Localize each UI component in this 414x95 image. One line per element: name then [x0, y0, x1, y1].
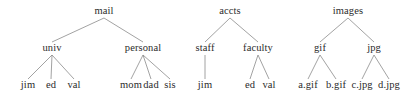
- tree-node-mom[interactable]: mom: [120, 79, 142, 90]
- tree-node-sis[interactable]: sis: [164, 79, 175, 90]
- tree-node-univ[interactable]: univ: [42, 42, 61, 53]
- tree-node-ed[interactable]: ed: [46, 79, 56, 90]
- tree-node-c_jpg[interactable]: c.jpg: [351, 79, 372, 90]
- tree-node-b_gif[interactable]: b.gif: [326, 79, 346, 90]
- tree-node-val2[interactable]: val: [262, 79, 275, 90]
- tree-node-images[interactable]: images: [333, 5, 363, 16]
- tree-node-staff[interactable]: staff: [196, 42, 215, 53]
- tree-node-personal[interactable]: personal: [125, 42, 161, 53]
- tree-node-faculty[interactable]: faculty: [243, 42, 273, 53]
- tree-node-ed2[interactable]: ed: [245, 79, 255, 90]
- tree-diagram-canvas: mailunivpersonaljimedvalmomdadsisacctsst…: [0, 0, 414, 95]
- tree-nodes: mailunivpersonaljimedvalmomdadsisacctsst…: [0, 0, 414, 95]
- tree-node-dad[interactable]: dad: [143, 79, 158, 90]
- tree-node-jim[interactable]: jim: [21, 79, 35, 90]
- tree-node-val[interactable]: val: [67, 79, 80, 90]
- tree-node-gif[interactable]: gif: [314, 42, 326, 53]
- tree-node-jpg[interactable]: jpg: [367, 42, 381, 53]
- tree-node-accts[interactable]: accts: [219, 5, 241, 16]
- tree-node-a_gif[interactable]: a.gif: [298, 79, 317, 90]
- tree-node-jim2[interactable]: jim: [198, 79, 212, 90]
- tree-node-d_jpg[interactable]: d.jpg: [378, 79, 400, 90]
- tree-node-mail[interactable]: mail: [94, 5, 113, 16]
